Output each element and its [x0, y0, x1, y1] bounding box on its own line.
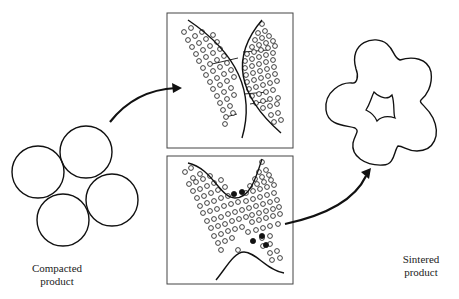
atom-dot	[271, 88, 276, 93]
atom-dot	[251, 197, 256, 202]
atom-dot	[229, 86, 234, 91]
atom-dot	[225, 61, 230, 66]
powder-particle	[86, 174, 138, 226]
atom-dot	[204, 37, 209, 42]
atom-dot	[189, 26, 194, 31]
atom-dot	[201, 177, 206, 182]
atom-dot	[250, 57, 255, 62]
atom-dot	[223, 122, 228, 127]
atom-dot	[225, 79, 230, 84]
powder-particle	[12, 146, 64, 198]
atom-dot	[276, 222, 281, 227]
atom-dot	[272, 183, 277, 188]
atom-dot	[197, 59, 202, 64]
atom-dot	[261, 99, 266, 104]
atom-dot	[246, 230, 251, 235]
atom-dot	[263, 29, 268, 34]
atom-dot	[215, 94, 220, 99]
atom-dot	[201, 48, 206, 53]
atom-dot	[211, 87, 216, 92]
atom-dot	[219, 196, 224, 201]
atom-dot	[208, 44, 213, 49]
atom-dot	[264, 60, 269, 65]
atom-dot	[202, 194, 207, 199]
atom-dot	[183, 170, 188, 175]
atom-dot	[211, 69, 216, 74]
atom-dot	[266, 74, 271, 79]
neck-growth-panel	[167, 156, 293, 284]
atom-dot	[254, 228, 259, 233]
atom-dot	[222, 90, 227, 95]
atom-dot	[228, 104, 233, 109]
atom-dot	[211, 51, 216, 56]
atom-dot	[256, 31, 261, 36]
atom-dot	[264, 209, 269, 214]
atom-dot	[240, 225, 245, 230]
atom-dot	[268, 251, 273, 256]
atom-dot	[226, 212, 231, 217]
powder-particle	[37, 194, 89, 246]
powder-particle	[60, 126, 112, 178]
atom-dot	[257, 43, 262, 48]
atom-dot	[226, 229, 231, 234]
atom-dot	[232, 93, 237, 98]
atom-dot	[219, 248, 224, 253]
vacancy-dot	[231, 191, 236, 196]
atom-dot	[273, 72, 278, 77]
atom-dot	[215, 58, 220, 63]
atom-dot	[232, 75, 237, 80]
atom-dot	[271, 51, 276, 56]
atom-dot	[272, 191, 277, 196]
atom-dot	[218, 65, 223, 70]
atom-dot	[225, 97, 230, 102]
atom-dot	[224, 115, 229, 120]
atom-dot	[268, 200, 273, 205]
atom-dot	[201, 66, 206, 71]
atom-dot	[212, 217, 217, 222]
atom-dot	[257, 92, 262, 97]
atom-dot	[240, 208, 245, 213]
atom-dot	[222, 72, 227, 77]
atom-dot	[273, 44, 278, 49]
atom-dot	[204, 73, 209, 78]
atom-dot	[221, 108, 226, 113]
atom-dot	[244, 73, 249, 78]
sintered-product-label: Sintered product	[386, 253, 456, 279]
atom-dot	[216, 241, 221, 246]
atom-dot	[244, 199, 249, 204]
atom-dot	[270, 258, 275, 263]
atom-dot	[233, 227, 238, 232]
atom-dot	[268, 224, 273, 229]
compacted-particles	[12, 126, 138, 246]
atom-dot	[247, 206, 252, 211]
atom-dot	[215, 76, 220, 81]
atom-dot	[212, 234, 217, 239]
atom-dot	[260, 175, 265, 180]
neck-panels	[167, 13, 293, 284]
atom-dot	[250, 213, 255, 218]
atom-dot	[209, 226, 214, 231]
atom-dot	[251, 189, 256, 194]
atom-dot	[264, 41, 269, 46]
atom-dot	[261, 202, 266, 207]
atom-dot	[211, 33, 216, 38]
atom-dot	[189, 166, 194, 171]
atom-dot	[266, 46, 271, 51]
atom-dot	[195, 196, 200, 201]
atom-dot	[216, 224, 221, 229]
atom-dot	[268, 97, 273, 102]
atom-dot	[275, 102, 280, 107]
atom-dot	[194, 52, 199, 57]
atom-dot	[269, 113, 274, 118]
atom-dot	[237, 217, 242, 222]
atom-dot	[259, 76, 264, 81]
atom-dot	[223, 185, 228, 190]
atom-dot	[198, 172, 203, 177]
atom-dot	[212, 199, 217, 204]
atom-dot	[264, 53, 269, 58]
arrow-to-sintered	[285, 168, 371, 224]
atom-dot	[254, 204, 259, 209]
atom-dot	[268, 104, 273, 109]
atom-dot	[219, 215, 224, 220]
atom-dot	[264, 216, 269, 221]
